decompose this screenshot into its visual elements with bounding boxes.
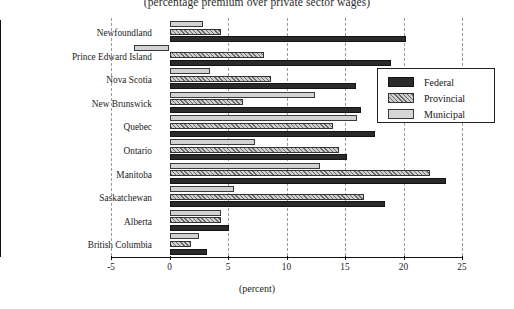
legend-swatch-provincial-icon (388, 93, 414, 103)
x-axis-tick-label: 15 (340, 262, 349, 272)
x-axis-title: (percent) (0, 283, 514, 294)
x-axis-tick-label: 10 (282, 262, 291, 272)
x-axis-tick-label: 0 (167, 262, 172, 272)
x-axis-tick (111, 256, 112, 260)
legend: Federal Provincial Municipal (377, 68, 495, 123)
legend-swatch-federal-icon (388, 77, 414, 87)
legend-label-municipal: Municipal (424, 109, 465, 120)
x-axis-tick (287, 256, 288, 260)
x-axis-tick (404, 256, 405, 260)
x-axis-tick (228, 256, 229, 260)
legend-swatch-municipal-icon (388, 109, 414, 119)
x-axis-tick (170, 256, 171, 260)
legend-item-municipal: Municipal (388, 106, 494, 122)
x-axis-tick (462, 256, 463, 260)
x-axis-tick-label: -5 (107, 262, 115, 272)
legend-item-provincial: Provincial (388, 90, 494, 106)
x-axis-tick (345, 256, 346, 260)
legend-item-federal: Federal (388, 74, 494, 90)
x-axis-tick-label: 5 (226, 262, 231, 272)
legend-label-federal: Federal (424, 77, 454, 88)
chart-container: (percentage premium over private sector … (0, 0, 514, 309)
x-axis-tick-label: 20 (399, 262, 408, 272)
x-axis: -50510152025 (112, 0, 462, 309)
x-axis-tick-label: 25 (457, 262, 466, 272)
legend-label-provincial: Provincial (424, 93, 465, 104)
